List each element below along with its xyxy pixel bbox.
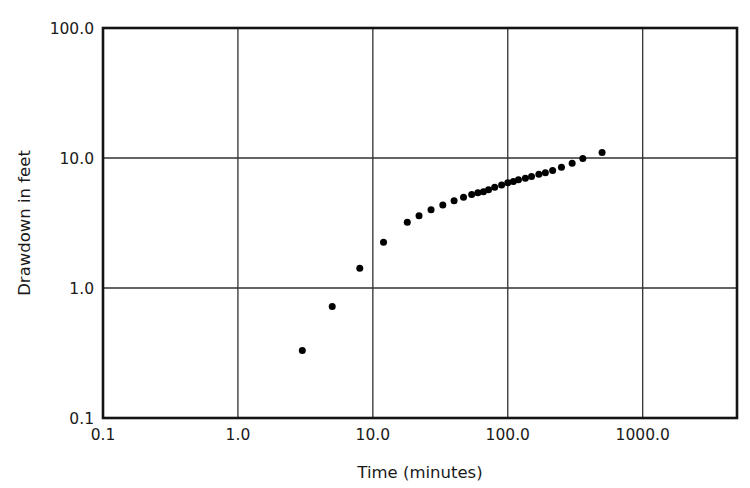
x-tick-label-10.0: 10.0: [356, 426, 391, 444]
data-point: [569, 160, 576, 167]
data-point: [535, 171, 542, 178]
data-point: [549, 167, 556, 174]
data-point: [356, 265, 363, 272]
y-tick-label-1.0: 1.0: [69, 280, 94, 298]
data-point: [498, 181, 505, 188]
data-point: [542, 169, 549, 176]
data-point: [558, 164, 565, 171]
data-point: [439, 202, 446, 209]
data-point: [299, 347, 306, 354]
data-point: [468, 191, 475, 198]
drawdown-vs-time-scatter-chart: 0.11.010.0100.01000.0 0.11.010.0100.0 Ti…: [0, 0, 750, 488]
x-tick-label-1000.0: 1000.0: [616, 426, 670, 444]
data-point: [528, 173, 535, 180]
x-tick-label-100.0: 100.0: [486, 426, 530, 444]
chart-figure: 0.11.010.0100.01000.0 0.11.010.0100.0 Ti…: [0, 0, 750, 488]
x-axis-title: Time (minutes): [356, 463, 482, 482]
x-tick-label-0.1: 0.1: [91, 426, 116, 444]
data-point: [404, 219, 411, 226]
y-tick-label-10.0: 10.0: [59, 150, 94, 168]
data-point: [428, 206, 435, 213]
data-point: [522, 175, 529, 182]
data-point: [380, 239, 387, 246]
data-point: [451, 197, 458, 204]
data-point: [599, 149, 606, 156]
y-axis-title: Drawdown in feet: [15, 150, 34, 296]
data-point: [460, 194, 467, 201]
data-point: [329, 303, 336, 310]
chart-background: [0, 0, 750, 488]
data-point: [416, 212, 423, 219]
data-point: [485, 186, 492, 193]
data-point: [579, 155, 586, 162]
y-tick-label-0.1: 0.1: [69, 410, 94, 428]
data-point: [515, 176, 522, 183]
data-point: [491, 184, 498, 191]
x-tick-label-1.0: 1.0: [226, 426, 251, 444]
y-tick-label-100.0: 100.0: [50, 20, 94, 38]
